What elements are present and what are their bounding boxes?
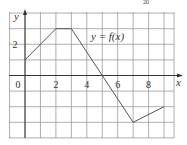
function-label: y = f(x) [90, 30, 124, 43]
svg-text:8: 8 [146, 79, 151, 90]
tick-labels: 024682 [13, 39, 152, 90]
y-axis-label: y [13, 10, 19, 22]
svg-text:2: 2 [53, 79, 58, 90]
function-graph: 20 024682 y x y = f(x) [0, 0, 187, 145]
svg-text:0: 0 [16, 79, 21, 90]
x-axis-label: x [175, 76, 181, 88]
svg-text:6: 6 [115, 79, 120, 90]
svg-text:4: 4 [84, 79, 89, 90]
header-fragment: 20 [143, 0, 149, 5]
svg-text:2: 2 [13, 39, 18, 50]
